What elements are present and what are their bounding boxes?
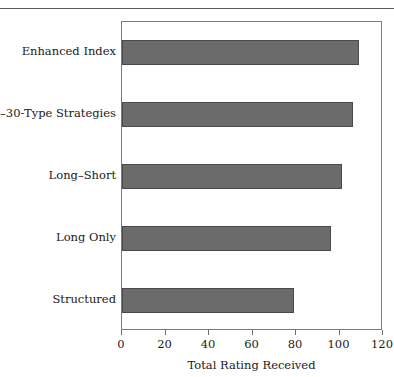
x-axis-tick-label: 0: [101, 338, 141, 351]
plot-inner: [122, 22, 381, 329]
x-axis-tick-mark: [208, 330, 209, 335]
y-axis-tick-label: Enhanced Index: [0, 45, 116, 58]
y-axis-tick-label: Long–Short: [0, 169, 116, 182]
bar: [122, 40, 359, 65]
x-axis-tick-mark: [121, 330, 122, 335]
y-axis-tick-label: Long Only: [0, 231, 116, 244]
x-axis-tick-label: 100: [319, 338, 359, 351]
bar: [122, 102, 353, 127]
x-axis-tick-mark: [295, 330, 296, 335]
bar: [122, 164, 342, 189]
bar-chart: Enhanced Index130–30-Type StrategiesLong…: [0, 0, 394, 377]
x-axis-tick-label: 20: [145, 338, 185, 351]
plot-frame: [121, 21, 382, 330]
x-axis-tick-mark: [252, 330, 253, 335]
x-axis-tick-label: 40: [188, 338, 228, 351]
x-axis-tick-mark: [382, 330, 383, 335]
x-axis-tick-label: 60: [232, 338, 272, 351]
y-axis-tick-label: Structured: [0, 293, 116, 306]
x-axis-tick-mark: [339, 330, 340, 335]
bar: [122, 226, 331, 251]
x-axis-tick-label: 120: [362, 338, 394, 351]
bar: [122, 288, 294, 313]
x-axis-tick-mark: [165, 330, 166, 335]
y-axis-tick-label: 130–30-Type Strategies: [0, 107, 116, 120]
x-axis-title: Total Rating Received: [121, 358, 382, 372]
x-axis-tick-label: 80: [275, 338, 315, 351]
